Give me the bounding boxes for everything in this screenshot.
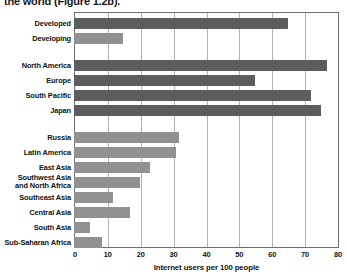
category-label: Southwest Asia and North Africa bbox=[0, 174, 71, 191]
bar-row[interactable] bbox=[74, 207, 339, 218]
bar[interactable] bbox=[74, 147, 176, 158]
x-tick-label: 30 bbox=[170, 250, 178, 259]
bar-chart: DevelopedDevelopingNorth AmericaEuropeSo… bbox=[0, 10, 347, 277]
x-tick-label: 40 bbox=[202, 250, 210, 259]
bar-rows bbox=[74, 12, 339, 248]
bar[interactable] bbox=[74, 75, 255, 86]
category-label: Sub-Saharan Africa bbox=[0, 239, 71, 247]
bar[interactable] bbox=[74, 132, 179, 143]
category-label: Developed bbox=[0, 20, 71, 28]
bar[interactable] bbox=[74, 162, 150, 173]
category-label: Latin America bbox=[0, 149, 71, 157]
page-caption-strip: the world (Figure 1.2b). bbox=[0, 0, 347, 8]
bar[interactable] bbox=[74, 177, 140, 188]
x-axis-ticks: 01020304050607080 bbox=[74, 250, 339, 262]
x-tick-label: 60 bbox=[268, 250, 276, 259]
category-labels: DevelopedDevelopingNorth AmericaEuropeSo… bbox=[0, 12, 71, 248]
category-label: Developing bbox=[0, 35, 71, 43]
x-tick-label: 50 bbox=[235, 250, 243, 259]
bar[interactable] bbox=[74, 90, 311, 101]
bar-row[interactable] bbox=[74, 33, 339, 44]
bar-row[interactable] bbox=[74, 237, 339, 248]
bar[interactable] bbox=[74, 222, 90, 233]
x-tick-label: 80 bbox=[334, 250, 342, 259]
x-tick-label: 70 bbox=[301, 250, 309, 259]
category-label: South Asia bbox=[0, 224, 71, 232]
bar-row[interactable] bbox=[74, 222, 339, 233]
x-tick-label: 20 bbox=[137, 250, 145, 259]
category-label: Russia bbox=[0, 134, 71, 142]
bar[interactable] bbox=[74, 105, 321, 116]
bar[interactable] bbox=[74, 18, 288, 29]
bar[interactable] bbox=[74, 33, 123, 44]
category-label: Europe bbox=[0, 77, 71, 85]
category-label: Japan bbox=[0, 107, 71, 115]
bar-row[interactable] bbox=[74, 75, 339, 86]
bar-row[interactable] bbox=[74, 18, 339, 29]
category-label: Southeast Asia bbox=[0, 194, 71, 202]
bar-row[interactable] bbox=[74, 132, 339, 143]
bar[interactable] bbox=[74, 237, 102, 248]
bar-row[interactable] bbox=[74, 105, 339, 116]
category-label: South Pacific bbox=[0, 92, 71, 100]
bar-row[interactable] bbox=[74, 147, 339, 158]
bar[interactable] bbox=[74, 192, 113, 203]
caption-text: the world (Figure 1.2b). bbox=[0, 0, 347, 8]
bar[interactable] bbox=[74, 60, 327, 71]
bar-row[interactable] bbox=[74, 162, 339, 173]
category-label: Central Asia bbox=[0, 209, 71, 217]
bar-row[interactable] bbox=[74, 60, 339, 71]
x-tick-label: 0 bbox=[73, 250, 77, 259]
category-label: North America bbox=[0, 62, 71, 70]
x-axis-title: Internet users per 100 people bbox=[74, 263, 339, 272]
category-label: East Asia bbox=[0, 164, 71, 172]
bar-row[interactable] bbox=[74, 177, 339, 188]
x-tick-label: 10 bbox=[104, 250, 112, 259]
bar[interactable] bbox=[74, 207, 130, 218]
bar-row[interactable] bbox=[74, 192, 339, 203]
bar-row[interactable] bbox=[74, 90, 339, 101]
